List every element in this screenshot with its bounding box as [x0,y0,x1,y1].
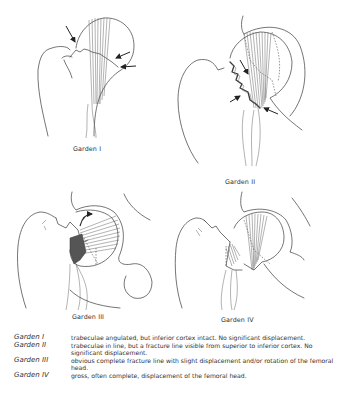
figure-caption-garden-1: Garden I [73,145,101,153]
garden-1-drawing [38,18,136,138]
legend-description: trabeculae angulated, but inferior corte… [71,334,344,342]
figure-caption-garden-4: Garden IV [221,316,254,324]
legend-description: gross, often complete, displacement of t… [71,372,344,380]
garden-2-drawing [178,16,305,166]
legend-row-garden-1: Garden I trabeculae angulated, but infer… [14,334,344,342]
garden-4-drawing [175,192,310,310]
legend-term: Garden II [14,342,71,357]
legend-row-garden-2: Garden II trabeculae in line, but a frac… [14,342,344,357]
figure-caption-garden-2: Garden II [225,178,255,186]
figure-caption-garden-3: Garden III [72,313,104,321]
legend-description: trabeculae in line, but a fracture line … [71,342,344,357]
garden-3-drawing [17,192,152,310]
legend-row-garden-3: Garden III obvious complete fracture lin… [14,357,344,372]
legend-term: Garden IV [14,372,71,380]
fracture-diagrams [0,0,347,330]
legend-description: obvious complete fracture line with slig… [71,357,344,372]
legend-term: Garden III [14,357,71,372]
legend-row-garden-4: Garden IV gross, often complete, displac… [14,372,344,380]
classification-legend: Garden I trabeculae angulated, but infer… [14,334,344,380]
